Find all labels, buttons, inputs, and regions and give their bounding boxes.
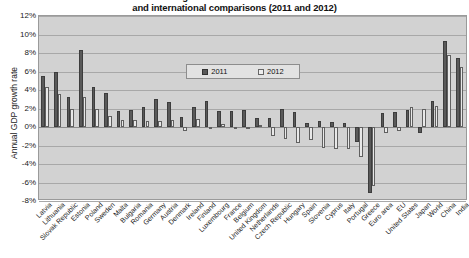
legend-item-2011: 2011 [202,67,227,76]
bar-2012 [397,127,401,131]
x-axis-labels: LatviaLithuaniaSlovak RepublicEstoniaPol… [38,201,467,258]
bar-group [328,16,341,199]
bar-2012 [171,120,175,127]
bar-2012 [359,127,363,157]
bar-2012 [334,127,338,149]
bar-series-container [39,16,466,199]
chart-figure: Annual GDP growth rate in the EU Member … [0,0,469,258]
y-tick-label: 4% [4,85,36,94]
bar-2012 [372,127,376,186]
legend-swatch-2011-icon [202,69,208,75]
bar-group [152,16,165,199]
bar-2012 [271,127,275,136]
plot-area [38,15,467,200]
bar-2011 [418,127,422,133]
y-tick-label: 6% [4,66,36,75]
bar-group [441,16,454,199]
bar-2012 [384,127,388,133]
bar-2012 [347,127,351,149]
bar-group [290,16,303,199]
bar-2012 [183,127,187,131]
legend-label-2011: 2011 [211,67,227,76]
bar-2012 [234,127,238,129]
bar-group [127,16,140,199]
y-tick-label: -4% [4,159,36,168]
bar-group [391,16,404,199]
bar-group [353,16,366,199]
chart-title: Annual GDP growth rate in the EU Member … [0,0,469,13]
bar-2012 [246,127,250,129]
bar-group [366,16,379,199]
bar-2012 [158,121,162,127]
bar-group [52,16,65,199]
bar-group [190,16,203,199]
bar-2012 [83,97,87,127]
bar-group [253,16,266,199]
bar-group [341,16,354,199]
bar-group [240,16,253,199]
bar-2012 [435,106,439,127]
y-tick-label: 2% [4,103,36,112]
bar-group [215,16,228,199]
bar-group [64,16,77,199]
bar-2012 [447,55,451,127]
bar-group [227,16,240,199]
bar-2011 [205,101,209,127]
bar-group [89,16,102,199]
bar-2012 [58,94,62,127]
bar-2012 [108,116,112,127]
y-tick-label: -8% [4,196,36,205]
y-tick-label: 10% [4,29,36,38]
bar-2011 [230,111,234,127]
y-axis-ticks: 12%10%8%6%4%2%0%-2%-4%-6%-8% [0,0,36,258]
bar-2011 [180,117,184,127]
bar-2011 [381,113,385,127]
bar-2012 [309,127,313,140]
bar-group [165,16,178,199]
legend-swatch-2012-icon [258,69,264,75]
bar-group [315,16,328,199]
chart-legend: 2011 2012 [186,64,300,79]
bar-group [303,16,316,199]
bar-group [77,16,90,199]
y-tick-label: 8% [4,48,36,57]
bar-group [428,16,441,199]
y-tick-label: 12% [4,11,36,20]
bar-2011 [393,112,397,127]
bar-group [265,16,278,199]
y-tick-label: -2% [4,140,36,149]
bar-2012 [410,107,414,127]
bar-2012 [146,121,150,127]
bar-2011 [242,110,246,127]
bar-2012 [133,120,137,127]
bar-group [202,16,215,199]
bar-2012 [95,109,99,128]
bar-2012 [284,127,288,139]
bar-group [278,16,291,199]
bar-2011 [268,118,272,127]
bar-group [378,16,391,199]
y-tick-label: -6% [4,177,36,186]
bar-2012 [259,125,263,127]
bar-group [140,16,153,199]
bar-2012 [209,127,213,129]
bar-2012 [422,109,426,128]
legend-label-2012: 2012 [267,67,284,76]
bar-2012 [322,127,326,148]
bar-2011 [293,112,297,127]
bar-group [39,16,52,199]
bar-group [102,16,115,199]
bar-group [114,16,127,199]
bar-2012 [121,120,125,127]
legend-item-2012: 2012 [258,67,284,76]
y-tick-label: 0% [4,122,36,131]
bar-2012 [70,109,74,128]
bar-group [177,16,190,199]
bar-2012 [221,124,225,127]
bar-2011 [280,109,284,127]
x-tick-label: India [454,201,469,217]
bar-group [416,16,429,199]
bar-group [403,16,416,199]
bar-2012 [196,119,200,127]
bar-group [454,16,467,199]
